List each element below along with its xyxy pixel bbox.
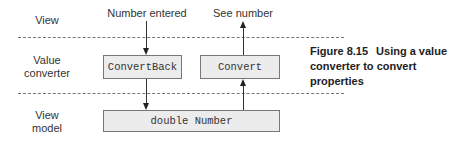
arrow-line-number-entered bbox=[146, 21, 147, 49]
layer-label-value-converter: Value converter bbox=[22, 54, 72, 80]
figure-caption: Figure 8.15Using a value converter to co… bbox=[310, 44, 450, 89]
arrow-line-convertback-to-model bbox=[146, 79, 147, 104]
arrow-down-icon bbox=[143, 48, 149, 55]
see-number-label: See number bbox=[210, 7, 276, 20]
separator-converter-viewmodel bbox=[18, 93, 344, 94]
arrow-line-model-to-convert bbox=[243, 86, 244, 110]
convert-back-box: ConvertBack bbox=[103, 55, 182, 79]
arrow-line-see-number bbox=[243, 28, 244, 55]
convert-box: Convert bbox=[200, 55, 280, 79]
separator-view-converter bbox=[18, 37, 344, 38]
arrow-down-icon bbox=[143, 103, 149, 110]
number-entered-label: Number entered bbox=[106, 7, 188, 20]
arrow-up-icon bbox=[240, 79, 246, 86]
arrow-up-icon bbox=[240, 21, 246, 28]
double-number-box: double Number bbox=[103, 110, 280, 132]
figure-number: Figure 8.15 bbox=[310, 45, 368, 57]
layer-label-view: View bbox=[22, 14, 72, 27]
layer-label-view-model: View model bbox=[22, 109, 72, 135]
